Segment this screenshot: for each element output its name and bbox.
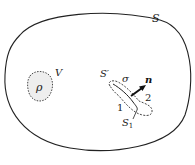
label-side-1: 1 [117, 102, 123, 113]
normal-arrow-shaft [131, 88, 142, 96]
diagram-canvas: S V ρ S′ σ n 1 2 S1 [0, 0, 195, 165]
label-normal-n: n [145, 74, 152, 85]
label-side-2: 2 [145, 92, 151, 103]
label-S-prime: S′ [100, 68, 110, 79]
label-V: V [55, 67, 64, 78]
label-S: S [152, 12, 160, 25]
label-sigma: σ [122, 73, 130, 84]
label-rho: ρ [35, 81, 43, 94]
label-S1: S1 [122, 117, 133, 130]
